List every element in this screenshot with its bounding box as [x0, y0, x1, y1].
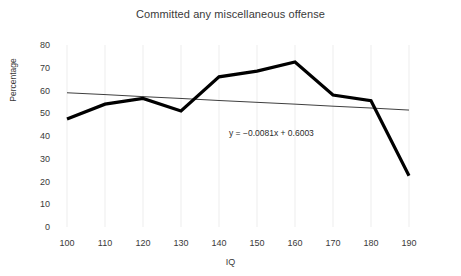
- data-series-line: [67, 62, 409, 176]
- chart-container: Committed any miscellaneous offense Perc…: [0, 0, 461, 276]
- plot-area: [0, 0, 461, 276]
- trendline-equation-label: y = −0.0081x + 0.6003: [229, 128, 314, 138]
